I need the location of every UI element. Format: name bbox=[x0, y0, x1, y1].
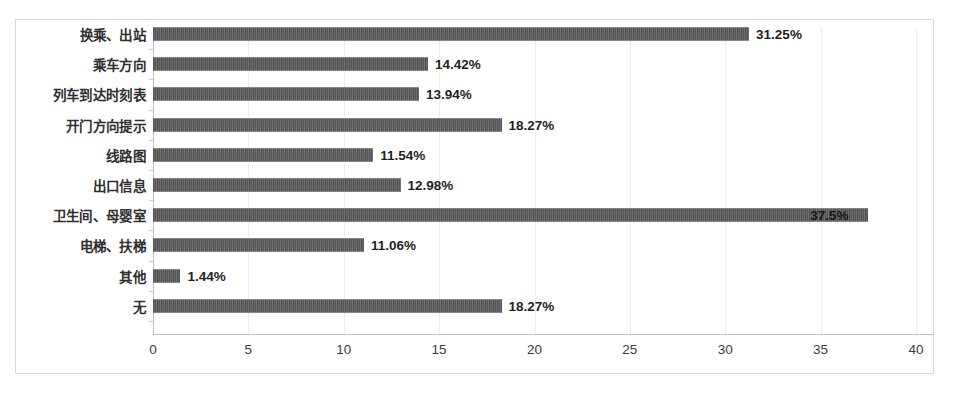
x-axis-tick-label: 5 bbox=[245, 342, 253, 357]
category-label: 乘车方向 bbox=[16, 54, 146, 74]
bar bbox=[153, 179, 401, 192]
category-label: 列车到达时刻表 bbox=[16, 84, 146, 104]
bar-value-label: 12.98% bbox=[408, 178, 454, 193]
x-axis-tick-label: 0 bbox=[149, 342, 157, 357]
bar-value-label: 1.44% bbox=[187, 268, 225, 283]
bar-value-label: 31.25% bbox=[756, 27, 802, 42]
category-label: 其他 bbox=[16, 266, 146, 286]
bar-value-label: 14.42% bbox=[435, 57, 481, 72]
y-axis-tick bbox=[149, 19, 153, 20]
chart-plot-area: 换乘、出站乘车方向列车到达时刻表开门方向提示线路图出口信息卫生间、母婴室电梯、扶… bbox=[16, 20, 935, 375]
category-label: 无 bbox=[16, 296, 146, 316]
bar bbox=[153, 148, 373, 161]
x-axis-tick-label: 40 bbox=[908, 342, 923, 357]
x-axis-tick-label: 20 bbox=[527, 342, 542, 357]
bar-value-label: 11.54% bbox=[380, 147, 425, 162]
bar bbox=[153, 209, 868, 222]
category-label: 换乘、出站 bbox=[16, 24, 146, 44]
x-axis-tick-label: 25 bbox=[622, 342, 637, 357]
x-axis-line bbox=[153, 334, 934, 335]
category-label: 出口信息 bbox=[16, 175, 146, 195]
gridline bbox=[725, 28, 726, 334]
chart-frame: 换乘、出站乘车方向列车到达时刻表开门方向提示线路图出口信息卫生间、母婴室电梯、扶… bbox=[15, 19, 934, 374]
gridline bbox=[630, 28, 631, 334]
bar bbox=[153, 58, 428, 71]
category-label: 开门方向提示 bbox=[16, 115, 146, 135]
bar-value-label: 13.94% bbox=[426, 87, 472, 102]
bar bbox=[153, 269, 180, 282]
bar bbox=[153, 88, 419, 101]
bar bbox=[153, 118, 502, 131]
gridline bbox=[916, 28, 917, 334]
x-axis-tick-label: 35 bbox=[813, 342, 828, 357]
bar-value-label: 37.5% bbox=[810, 208, 848, 223]
category-label: 电梯、扶梯 bbox=[16, 235, 146, 255]
bar bbox=[153, 299, 502, 312]
category-label: 卫生间、母婴室 bbox=[16, 205, 146, 225]
x-axis-tick-label: 15 bbox=[432, 342, 447, 357]
bar bbox=[153, 239, 364, 252]
x-axis-tick-label: 30 bbox=[718, 342, 733, 357]
bar-value-label: 18.27% bbox=[509, 117, 555, 132]
bar-value-label: 18.27% bbox=[509, 298, 555, 313]
gridline bbox=[821, 28, 822, 334]
category-label: 线路图 bbox=[16, 145, 146, 165]
x-axis-tick-label: 10 bbox=[336, 342, 351, 357]
gridline bbox=[535, 28, 536, 334]
bar bbox=[153, 28, 749, 41]
bar-value-label: 11.06% bbox=[371, 238, 416, 253]
